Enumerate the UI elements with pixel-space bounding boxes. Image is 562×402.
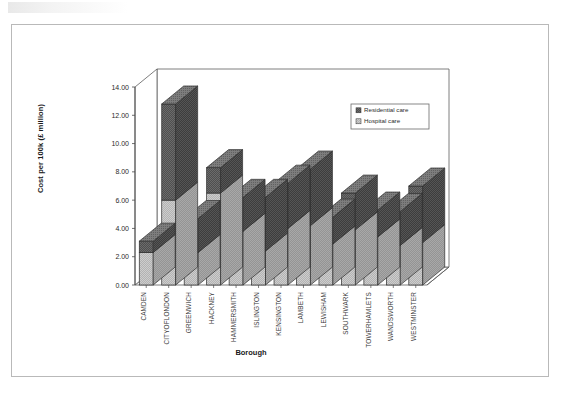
page-scan-artifact [8, 2, 128, 13]
y-axis-tick-label: 0.00 [115, 282, 129, 289]
x-axis-tick-label: KENSINGTON [275, 292, 282, 336]
chart-legend: Residential careHospital care [351, 104, 429, 129]
y-axis-tick-label: 12.00 [111, 112, 129, 119]
legend-swatch [356, 108, 361, 113]
y-axis-tick-label: 8.00 [115, 168, 129, 175]
y-axis-tick-label: 2.00 [115, 253, 129, 260]
x-axis-tick-label: WESTMINSTER [410, 292, 417, 341]
x-axis-tick-label: CITYOFLONDON [163, 292, 170, 345]
stacked-bar-chart: Cost per 100k (£ million) Borough [11, 24, 549, 377]
legend-swatch [356, 119, 361, 124]
x-axis-tick-label: HACKNEY [208, 291, 215, 324]
x-axis-tick-label: WANDSWORTH [387, 292, 394, 341]
x-axis-tick-label: LEWISHAM [320, 292, 327, 327]
y-axis-tick-label: 10.00 [111, 140, 129, 147]
x-axis-tick-label: LAMBETH [297, 292, 304, 323]
y-axis-tick-label: 14.00 [111, 84, 129, 91]
y-axis-tick-label: 6.00 [115, 197, 129, 204]
chart-page: Cost per 100k (£ million) Borough [0, 0, 562, 402]
x-axis-tick-label: ISLINGTON [253, 292, 260, 328]
x-axis-ticks: CAMDENCITYOFLONDONGREENWICHHACKNEYHAMMER… [140, 285, 417, 348]
x-axis-tick-label: GREENWICH [185, 292, 192, 333]
y-axis-tick-label: 4.00 [115, 225, 129, 232]
x-axis-tick-label: HAMMERSMITH [230, 292, 237, 342]
y-axis-ticks: 0.002.004.006.008.0010.0012.0014.00 [111, 84, 135, 289]
plot-svg: 0.002.004.006.008.0010.0012.0014.00 CAMD… [11, 24, 549, 377]
x-axis-tick-label: TOWERHAMLETS [365, 292, 372, 348]
x-axis-tick-label: CAMDEN [140, 292, 147, 321]
x-axis-tick-label: SOUTHWARK [342, 291, 349, 334]
legend-label: Hospital care [364, 117, 401, 124]
legend-label: Residential care [364, 106, 409, 113]
